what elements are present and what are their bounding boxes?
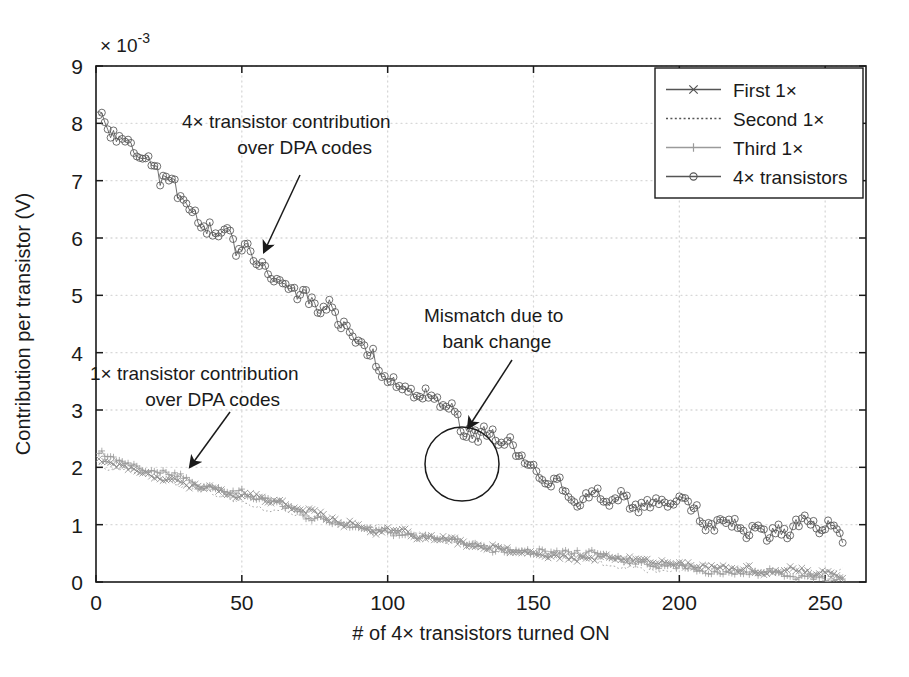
y-tick-label: 3 — [71, 399, 83, 422]
y-tick-label: 6 — [71, 227, 83, 250]
y-tick-label: 2 — [71, 456, 83, 479]
legend-label: First 1× — [733, 80, 797, 101]
y-tick-label: 0 — [71, 571, 83, 594]
legend-label: Second 1× — [733, 109, 824, 130]
x-tick-label: 250 — [808, 591, 843, 614]
x-tick-label: 100 — [370, 591, 405, 614]
chart-legend[interactable]: First 1×Second 1×Third 1×4× transistors — [655, 68, 863, 198]
y-tick-label: 7 — [71, 170, 83, 193]
x-tick-label: 50 — [230, 591, 253, 614]
y-tick-label: 4 — [71, 342, 83, 365]
x-tick-label: 200 — [662, 591, 697, 614]
y-axis-title: Contribution per transistor (V) — [12, 193, 34, 455]
y-tick-label: 9 — [71, 55, 83, 78]
x-tick-label: 0 — [90, 591, 102, 614]
y-tick-label: 8 — [71, 112, 83, 135]
x-tick-label: 150 — [516, 591, 551, 614]
chart-canvas: 0501001502002500123456789 4× transistor … — [0, 0, 909, 677]
legend-label: 4× transistors — [733, 167, 848, 188]
figure-container: 0501001502002500123456789 4× transistor … — [0, 0, 909, 677]
legend-label: Third 1× — [733, 138, 803, 159]
x-axis-title: # of 4× transistors turned ON — [352, 622, 609, 644]
y-tick-label: 5 — [71, 284, 83, 307]
y-tick-label: 1 — [71, 514, 83, 537]
